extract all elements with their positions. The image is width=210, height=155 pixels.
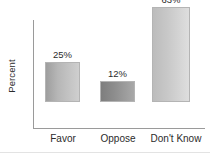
bar-value-label: 25% bbox=[35, 49, 90, 60]
bar-group-favor: 25% bbox=[45, 62, 80, 102]
bar-value-label: 63% bbox=[142, 0, 200, 5]
bar-oppose[interactable] bbox=[100, 81, 135, 102]
bar-favor[interactable] bbox=[45, 62, 80, 102]
bar-chart: Percent 25% 12% 63% Favor Oppose Don't K… bbox=[0, 0, 210, 155]
bottom-divider bbox=[0, 152, 210, 153]
bar-value-label: 12% bbox=[90, 68, 145, 79]
bar-group-dont-know: 63% bbox=[152, 7, 190, 102]
bar-dont-know[interactable] bbox=[152, 7, 190, 102]
x-tick-label-oppose: Oppose bbox=[92, 133, 144, 144]
x-tick-label-favor: Favor bbox=[38, 133, 88, 144]
bar-group-oppose: 12% bbox=[100, 81, 135, 102]
x-tick-label-dont-know: Don't Know bbox=[145, 133, 207, 144]
plot-area: 25% 12% 63% bbox=[0, 0, 210, 129]
